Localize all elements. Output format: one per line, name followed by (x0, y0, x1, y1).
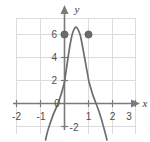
marked-point[interactable] (61, 31, 68, 38)
x-tick-label: -1 (37, 111, 46, 122)
y-tick-label: 4 (51, 52, 57, 63)
coordinate-plane-svg: -2 -1 0 1 2 3 6 4 2 -2 y x (0, 0, 150, 142)
x-tick-label: 1 (86, 111, 92, 122)
y-tick-label: 6 (51, 29, 57, 40)
y-tick-label: 2 (51, 75, 57, 86)
marked-point[interactable] (85, 31, 92, 38)
origin-label: 0 (54, 98, 60, 109)
x-tick-label: -2 (12, 111, 21, 122)
y-axis-label: y (74, 3, 80, 15)
y-tick-label: -2 (70, 122, 79, 133)
x-tick-label: 3 (126, 111, 132, 122)
x-tick-label: 2 (110, 111, 116, 122)
graph-figure: -2 -1 0 1 2 3 6 4 2 -2 y x (0, 0, 150, 142)
x-axis-label: x (142, 97, 148, 109)
